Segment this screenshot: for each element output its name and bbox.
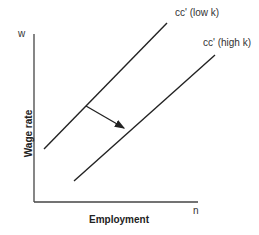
curve-low-k xyxy=(44,23,167,149)
y-axis-symbol: w xyxy=(18,28,25,39)
diagram-canvas xyxy=(0,0,259,235)
curve-low-k-label: cc' (low k) xyxy=(175,7,219,18)
y-axis-label: Wage rate xyxy=(23,104,34,164)
x-axis-symbol: n xyxy=(193,205,199,216)
x-axis-label: Employment xyxy=(89,214,149,225)
curve-high-k xyxy=(74,55,215,181)
shift-arrow xyxy=(86,106,124,128)
curve-high-k-label: cc' (high k) xyxy=(203,37,251,48)
